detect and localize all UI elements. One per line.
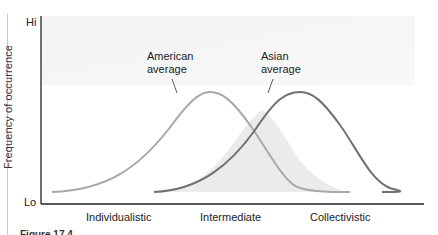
y-axis-label: Frequency of occurrence [2,42,16,172]
american-label-line1: American [147,50,193,63]
asian-label-line1: Asian [261,50,301,63]
x-tick-collectivistic: Collectivistic [310,211,371,223]
asian-average-label: Asian average [261,50,301,76]
asian-label-line2: average [261,63,301,76]
asian-curve-tail [340,125,398,192]
american-average-label: American average [147,50,193,76]
chart-canvas [0,0,438,235]
figure-caption: Figure 17.4 [20,229,73,235]
y-tick-lo: Lo [24,196,36,208]
overlap-region [154,110,350,192]
x-tick-individualistic: Individualistic [86,211,151,223]
x-tick-intermediate: Intermediate [200,211,261,223]
plot-background [42,16,415,85]
y-tick-hi: Hi [26,16,36,28]
american-label-line2: average [147,63,193,76]
